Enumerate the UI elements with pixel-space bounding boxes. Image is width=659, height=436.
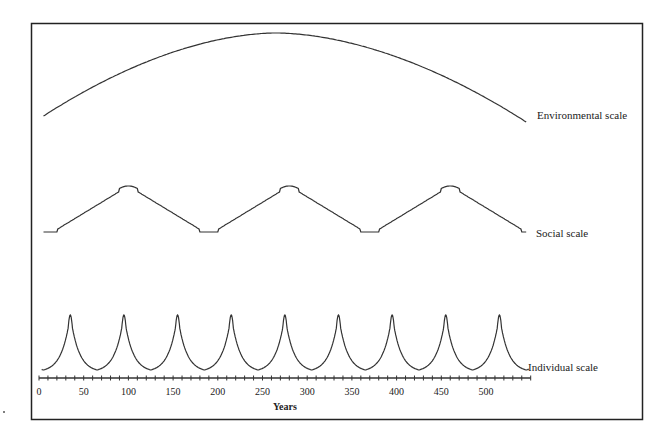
x-tick-label: 350	[344, 386, 359, 397]
social-scale-curve	[44, 186, 527, 232]
environmental-scale-curve	[44, 33, 527, 122]
x-tick-label: 100	[121, 386, 136, 397]
figure: Environmental scale Social scale Individ…	[0, 0, 659, 436]
x-tick-label: 450	[434, 386, 449, 397]
x-tick-label: 150	[166, 386, 181, 397]
x-tick-label: 50	[79, 386, 89, 397]
stray-dot	[3, 411, 5, 413]
environmental-scale-label: Environmental scale	[537, 109, 627, 121]
x-tick-label: 400	[389, 386, 404, 397]
x-tick-label: 0	[37, 386, 42, 397]
social-scale-label: Social scale	[536, 227, 588, 239]
x-axis-title: Years	[273, 401, 297, 412]
x-tick-label: 250	[255, 386, 270, 397]
individual-scale-curve	[42, 315, 529, 370]
x-tick-label: 500	[479, 386, 494, 397]
x-tick-label: 300	[300, 386, 315, 397]
individual-scale-label: Individual scale	[528, 361, 598, 373]
x-tick-label: 200	[210, 386, 225, 397]
x-axis	[39, 376, 531, 381]
